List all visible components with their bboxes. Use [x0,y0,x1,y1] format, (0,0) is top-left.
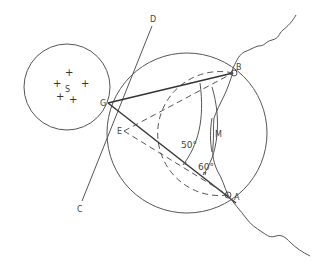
line-ga [108,103,236,203]
angle-label-60: 60° [198,162,214,172]
star-icon: + [69,94,77,105]
star-icon: + [56,91,64,102]
line-eb [124,73,233,131]
label-e: E [117,127,122,136]
angle-arc-50 [183,83,202,165]
label-b: B [236,63,242,72]
diagram-canvas: B A G E D C S M 50° 60° + + + + + [0,0,326,269]
label-g: G [100,99,106,108]
star-icon: + [81,78,89,89]
star-icon: + [65,67,73,78]
label-m: M [215,130,222,139]
geometry-diagram: B A G E D C S M 50° 60° + + + + + [0,0,326,269]
coastline [213,15,310,256]
label-c: C [77,205,83,214]
large-circle [107,53,267,213]
label-a: A [234,193,240,202]
label-s: S [65,85,70,94]
label-d: D [150,15,156,24]
angle-label-50: 50° [181,140,197,150]
star-icon: + [53,78,61,89]
coast-m-line [211,118,213,152]
